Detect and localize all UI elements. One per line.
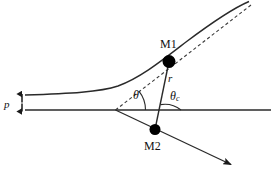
mass-m1-label: M1 [160,38,177,50]
theta-c-angle-arc [161,104,182,110]
trajectory-curve [25,2,249,96]
scattering-diagram-figure: p M1 M2 r θ θc [0,0,276,174]
outgoing-direction-arrow [116,110,232,165]
mass-m1-marker [163,55,176,68]
theta-angle-label: θ [133,89,139,101]
theta-angle-arc [139,91,146,110]
impact-parameter-label: p [4,99,10,110]
theta-c-subscript: c [176,94,180,103]
separation-segment-r [155,62,169,130]
theta-c-angle-label: θc [170,90,179,103]
diagram-canvas [0,0,276,174]
mass-m2-label: M2 [144,140,161,152]
mass-m2-marker [150,124,161,135]
separation-r-label: r [168,73,172,84]
